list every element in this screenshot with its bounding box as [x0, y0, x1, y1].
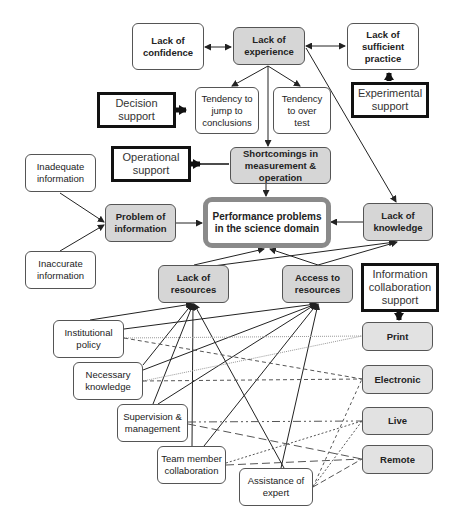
node-label: Information collaboration support	[369, 268, 431, 307]
node-label: Decision support	[115, 97, 157, 123]
node-live: Live	[362, 407, 433, 435]
node-label: Inaccurate information	[37, 258, 84, 282]
node-inaccurate-information: Inaccurate information	[25, 251, 96, 289]
node-label: Institutional policy	[64, 327, 112, 351]
node-information-collaboration-support: Information collaboration support	[361, 263, 439, 312]
node-assistance-of-expert: Assistance of expert	[239, 468, 313, 506]
node-performance-problems: Performance problems in the science doma…	[203, 197, 331, 248]
node-supervision-management: Supervision & management	[117, 404, 188, 442]
node-label: Supervision & management	[123, 411, 182, 435]
node-label: Lack of resources	[171, 272, 216, 296]
node-lack-of-confidence: Lack of confidence	[132, 23, 204, 70]
node-problem-of-information: Problem of information	[105, 204, 176, 242]
node-label: Necessary knowledge	[85, 369, 130, 393]
node-label: Shortcomings in measurement & operation	[234, 148, 327, 184]
node-label: Tendency to jump to conclusions	[201, 93, 252, 129]
node-label: Inadequate information	[37, 161, 85, 185]
node-lack-of-experience: Lack of experience	[233, 27, 305, 65]
node-lack-of-resources: Lack of resources	[158, 265, 229, 303]
node-label: Operational support	[123, 151, 180, 177]
node-label: Lack of experience	[244, 34, 294, 58]
node-decision-support: Decision support	[97, 92, 176, 128]
node-label: Assistance of expert	[248, 475, 305, 499]
node-print: Print	[362, 322, 433, 351]
node-label: Access to resources	[295, 272, 340, 296]
node-access-to-resources: Access to resources	[282, 265, 353, 303]
node-experimental-support: Experimental support	[351, 82, 429, 118]
node-lack-of-knowledge: Lack of knowledge	[363, 203, 433, 241]
node-lack-of-sufficient-practice: Lack of sufficient practice	[347, 23, 419, 70]
node-label: Remote	[380, 454, 415, 466]
node-label: Print	[387, 331, 409, 343]
node-institutional-policy: Institutional policy	[53, 320, 124, 358]
node-necessary-knowledge: Necessary knowledge	[73, 362, 143, 400]
node-tendency-to-over-test: Tendency to over test	[273, 87, 331, 134]
node-team-member-collaboration: Team member collaboration	[157, 446, 226, 484]
node-remote: Remote	[362, 445, 433, 474]
node-label: Tendency to over test	[282, 93, 323, 129]
node-inadequate-information: Inadequate information	[25, 154, 96, 192]
node-electronic: Electronic	[362, 365, 433, 394]
node-label: Experimental support	[358, 87, 422, 113]
node-label: Electronic	[375, 374, 421, 386]
node-shortcomings-measurement-operation: Shortcomings in measurement & operation	[230, 147, 331, 184]
node-tendency-jump-to-conclusions: Tendency to jump to conclusions	[195, 87, 259, 134]
node-label: Lack of confidence	[143, 35, 193, 59]
node-label: Problem of information	[114, 211, 166, 235]
node-label: Live	[388, 415, 407, 427]
node-operational-support: Operational support	[111, 146, 191, 182]
node-label: Lack of knowledge	[373, 210, 422, 234]
node-label: Lack of sufficient practice	[362, 29, 404, 65]
node-label: Team member collaboration	[161, 453, 222, 477]
node-label: Performance problems in the science doma…	[213, 211, 322, 235]
